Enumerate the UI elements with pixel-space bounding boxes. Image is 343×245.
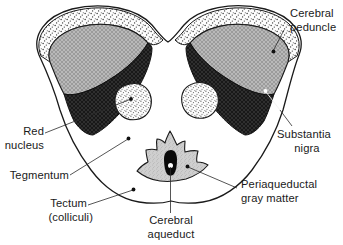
label-tectum-line2: (colliculi) bbox=[48, 211, 93, 223]
callout-dot-periaqueductal-gray bbox=[186, 165, 190, 169]
label-cerebral-aqueduct-line2: aqueduct bbox=[148, 228, 196, 240]
label-periaqueductal-gray-line2: gray matter bbox=[241, 192, 299, 204]
label-red-nucleus-line1: Red bbox=[23, 125, 44, 137]
red-nucleus-left bbox=[115, 83, 151, 119]
callout-dot-red-nucleus bbox=[129, 97, 133, 101]
midbrain-diagram-svg: Cerebral peduncle Substantia nigra Red n… bbox=[0, 0, 343, 245]
callout-dot-tegmentum bbox=[127, 137, 131, 141]
label-cerebral-peduncle-line2: peduncle bbox=[290, 21, 336, 33]
label-periaqueductal-gray-line1: Periaqueductal bbox=[241, 178, 317, 190]
label-substantia-nigra-line2: nigra bbox=[294, 142, 320, 154]
label-cerebral-aqueduct-line1: Cerebral bbox=[149, 214, 193, 226]
label-tectum-line1: Tectum bbox=[50, 197, 87, 209]
midbrain-cross-section-figure: Cerebral peduncle Substantia nigra Red n… bbox=[0, 0, 343, 245]
label-red-nucleus-line2: nucleus bbox=[5, 139, 45, 151]
callout-dot-tectum bbox=[132, 188, 136, 192]
label-substantia-nigra-line1: Substantia bbox=[277, 128, 332, 140]
leader-substantia-nigra bbox=[280, 110, 292, 126]
callout-dot-cerebral-peduncle bbox=[272, 50, 276, 54]
callout-dot-substantia-nigra bbox=[264, 89, 268, 93]
label-tegmentum: Tegmentum bbox=[10, 169, 69, 181]
label-cerebral-peduncle-line1: Cerebral bbox=[290, 7, 334, 19]
red-nucleus-right bbox=[182, 82, 219, 118]
